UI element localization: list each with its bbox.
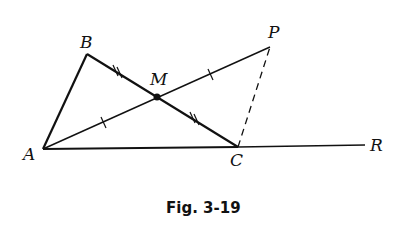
label-r: R [369,135,383,155]
label-a: A [21,144,35,164]
geometry-figure: B M P A C R Fig. 3-19 [0,0,406,229]
ray-cr [238,145,365,147]
figure-caption: Fig. 3-19 [166,199,241,217]
segment-ab [43,54,87,149]
label-p: P [267,22,280,42]
segment-ac [43,147,238,149]
label-c: C [230,150,243,170]
segment-cp-dashed [238,47,270,147]
segment-bc [87,54,238,147]
label-b: B [79,32,93,52]
label-m: M [149,69,168,89]
midpoint-m-dot [154,94,161,101]
